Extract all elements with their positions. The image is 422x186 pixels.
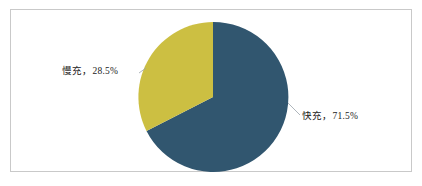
pie-label-fast-charge: 快充，71.5% [302,112,358,122]
pie-label-slow-charge: 慢充，28.5% [62,67,118,77]
leader-line-fast-charge [288,103,300,115]
pie-graphic [0,0,422,186]
pie-chart-figure: 慢充，28.5% 快充，71.5% [0,0,422,186]
chart-plot-area: 慢充，28.5% 快充，71.5% [0,0,422,186]
